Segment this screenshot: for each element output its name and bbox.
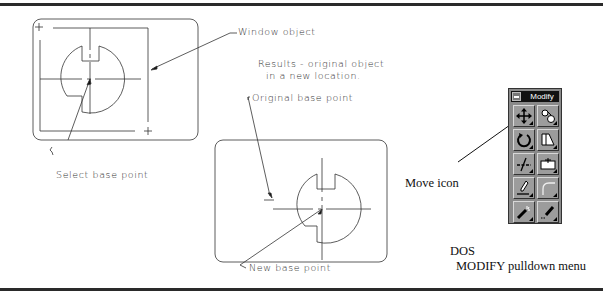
explode-button[interactable] bbox=[513, 201, 535, 223]
fillet-button[interactable] bbox=[537, 177, 559, 199]
move-button[interactable] bbox=[513, 105, 535, 127]
label-new-base-point: New base point bbox=[249, 262, 331, 274]
toolbar-title: Modify bbox=[525, 91, 559, 102]
label-results-line1: Results - original object bbox=[258, 58, 384, 70]
label-results-line2: in a new location. bbox=[266, 70, 361, 82]
original-object-panel bbox=[33, 19, 237, 155]
edit-button[interactable] bbox=[513, 177, 535, 199]
moved-object-panel bbox=[215, 97, 387, 268]
toolbar-title-bar[interactable]: Modify bbox=[511, 91, 559, 102]
caption-line2: MODIFY pulldown menu bbox=[456, 259, 586, 273]
break-button[interactable] bbox=[537, 153, 559, 175]
modify-toolbar: Modify bbox=[508, 88, 562, 224]
trim-button[interactable] bbox=[513, 153, 535, 175]
label-move-icon: Move icon bbox=[405, 176, 459, 190]
copy-object-button[interactable] bbox=[537, 105, 559, 127]
stretch-button[interactable] bbox=[537, 129, 559, 151]
label-original-base-point: Original base point bbox=[252, 92, 353, 104]
caption-line1: DOS bbox=[450, 244, 475, 258]
erase-button[interactable] bbox=[537, 201, 559, 223]
system-menu-icon[interactable] bbox=[512, 92, 521, 101]
label-select-base-point: Select base point bbox=[56, 169, 148, 181]
label-window-object: Window object bbox=[238, 26, 316, 38]
rotate-button[interactable] bbox=[513, 129, 535, 151]
